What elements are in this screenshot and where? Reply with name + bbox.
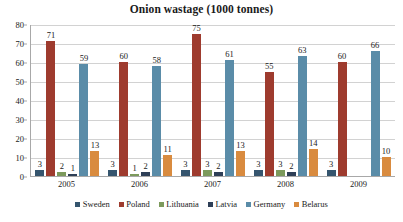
bar-belarus-2005[interactable]: 13 (90, 151, 99, 176)
bar-latvia-2007[interactable]: 2 (214, 172, 223, 176)
x-tick-label-2005: 2005 (30, 179, 103, 189)
bar-slot-lithuania-2006: 1 (130, 25, 139, 176)
x-tick-label-2008: 2008 (249, 179, 322, 189)
bar-slot-poland-2008: 55 (265, 25, 274, 176)
bar-germany-2008[interactable]: 63 (298, 56, 307, 176)
bar-slot-lithuania-2009 (349, 25, 358, 176)
bar-slot-latvia-2005: 1 (68, 25, 77, 176)
bar-slot-belarus-2007: 13 (236, 25, 245, 176)
bar-latvia-2006[interactable]: 2 (141, 172, 150, 176)
bar-sweden-2005[interactable]: 3 (35, 170, 44, 176)
bar-belarus-2006[interactable]: 11 (163, 155, 172, 176)
bar-belarus-2009[interactable]: 10 (382, 157, 391, 176)
bar-value-label: 2 (144, 162, 148, 171)
bar-slot-latvia-2009 (360, 25, 369, 176)
legend-swatch-icon-latvia (208, 202, 213, 207)
y-tick-mark-60 (24, 63, 27, 64)
bar-value-label: 66 (371, 41, 380, 50)
bar-value-label: 60 (119, 52, 128, 61)
legend-swatch-icon-germany (246, 202, 251, 207)
legend-item-sweden[interactable]: Sweden (75, 200, 109, 209)
bar-lithuania-2008[interactable]: 3 (276, 170, 285, 176)
bar-groups: 3712159133601258113753261133553263143606… (31, 25, 395, 176)
x-tick-label-2007: 2007 (176, 179, 249, 189)
bar-value-label: 3 (256, 160, 260, 169)
bar-slot-poland-2007: 75 (192, 25, 201, 176)
bar-sweden-2006[interactable]: 3 (108, 170, 117, 176)
bar-value-label: 13 (91, 141, 100, 150)
bar-value-label: 2 (289, 162, 293, 171)
bar-slot-lithuania-2005: 2 (57, 25, 66, 176)
bar-slot-sweden-2007: 3 (181, 25, 190, 176)
legend-item-latvia[interactable]: Latvia (208, 200, 237, 209)
bar-lithuania-2006[interactable]: 1 (130, 174, 139, 176)
y-tick-mark-20 (24, 139, 27, 140)
bar-belarus-2007[interactable]: 13 (236, 151, 245, 176)
y-tick-mark-0 (24, 177, 27, 178)
bar-slot-germany-2005: 59 (79, 25, 88, 176)
bar-value-label: 60 (338, 52, 347, 61)
legend-label: Latvia (215, 200, 237, 209)
legend-swatch-icon-poland (119, 202, 124, 207)
x-tick-label-2009: 2009 (322, 179, 395, 189)
bar-value-label: 1 (71, 164, 75, 173)
bar-lithuania-2007[interactable]: 3 (203, 170, 212, 176)
bar-sweden-2007[interactable]: 3 (181, 170, 190, 176)
bar-slot-sweden-2005: 3 (35, 25, 44, 176)
bar-slot-latvia-2007: 2 (214, 25, 223, 176)
bar-germany-2007[interactable]: 61 (225, 60, 234, 176)
bar-value-label: 13 (236, 141, 245, 150)
y-tick-mark-40 (24, 101, 27, 102)
bar-slot-latvia-2006: 2 (141, 25, 150, 176)
chart-title: Onion wastage (1000 tonnes) (0, 3, 403, 15)
y-tick-mark-80 (24, 25, 27, 26)
legend-swatch-icon-lithuania (159, 202, 164, 207)
bar-slot-germany-2009: 66 (371, 25, 380, 176)
bar-latvia-2008[interactable]: 2 (287, 172, 296, 176)
bar-poland-2005[interactable]: 71 (46, 41, 55, 176)
legend-item-lithuania[interactable]: Lithuania (159, 200, 199, 209)
bar-value-label: 3 (205, 160, 209, 169)
legend-item-belarus[interactable]: Belarus (294, 200, 327, 209)
bar-germany-2009[interactable]: 66 (371, 51, 380, 176)
x-tick-label-2006: 2006 (103, 179, 176, 189)
bar-group-2008: 355326314 (249, 25, 322, 176)
bar-value-label: 10 (382, 147, 391, 156)
bar-slot-belarus-2008: 14 (309, 25, 318, 176)
bar-poland-2009[interactable]: 60 (338, 62, 347, 176)
bar-group-2009: 3606610 (322, 25, 395, 176)
bar-group-2005: 371215913 (31, 25, 104, 176)
bar-value-label: 2 (60, 162, 64, 171)
bar-slot-germany-2006: 58 (152, 25, 161, 176)
y-tick-label-60: 60 (16, 59, 25, 68)
bar-value-label: 55 (265, 62, 274, 71)
bar-value-label: 58 (152, 56, 161, 65)
bar-germany-2005[interactable]: 59 (79, 64, 88, 176)
bar-lithuania-2005[interactable]: 2 (57, 172, 66, 176)
y-tick-label-50: 50 (16, 78, 25, 87)
y-axis: 01020304050607080 (0, 25, 27, 177)
bar-value-label: 3 (329, 160, 333, 169)
bar-slot-poland-2009: 60 (338, 25, 347, 176)
chart-legend: SwedenPolandLithuaniaLatviaGermanyBelaru… (0, 200, 403, 209)
bar-belarus-2008[interactable]: 14 (309, 149, 318, 176)
bar-poland-2007[interactable]: 75 (192, 34, 201, 177)
legend-item-germany[interactable]: Germany (246, 200, 285, 209)
legend-item-poland[interactable]: Poland (119, 200, 150, 209)
legend-label: Poland (126, 200, 150, 209)
bar-value-label: 59 (80, 54, 89, 63)
bar-value-label: 3 (38, 160, 42, 169)
bar-sweden-2008[interactable]: 3 (254, 170, 263, 176)
bar-value-label: 1 (133, 164, 137, 173)
bar-slot-sweden-2008: 3 (254, 25, 263, 176)
bar-latvia-2005[interactable]: 1 (68, 174, 77, 176)
bar-sweden-2009[interactable]: 3 (327, 170, 336, 176)
bar-slot-sweden-2006: 3 (108, 25, 117, 176)
legend-label: Germany (254, 200, 286, 209)
bar-poland-2008[interactable]: 55 (265, 72, 274, 177)
bar-value-label: 14 (309, 139, 318, 148)
legend-label: Belarus (302, 200, 328, 209)
bar-poland-2006[interactable]: 60 (119, 62, 128, 176)
bar-germany-2006[interactable]: 58 (152, 66, 161, 176)
legend-label: Sweden (83, 200, 110, 209)
